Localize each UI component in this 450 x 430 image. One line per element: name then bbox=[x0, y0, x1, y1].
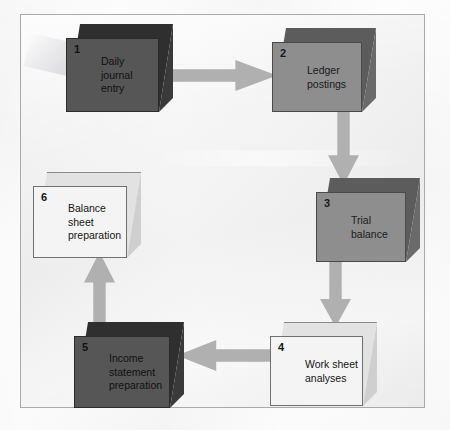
node-5-income-statement-preparation[interactable]: 5 Income statement preparation bbox=[74, 322, 184, 408]
node-4-label: Work sheet analyses bbox=[305, 358, 358, 385]
node-1-label: Daily journal entry bbox=[101, 55, 154, 96]
box-front-face: 3 Trial balance bbox=[316, 192, 406, 262]
node-2-label: Ledger postings bbox=[307, 64, 357, 91]
box-front-face: 1 Daily journal entry bbox=[66, 38, 159, 112]
node-6-number: 6 bbox=[41, 192, 47, 203]
node-5-number: 5 bbox=[82, 342, 88, 353]
node-2-ledger-postings[interactable]: 2 Ledger postings bbox=[272, 28, 376, 112]
box-front-face: 5 Income statement preparation bbox=[74, 336, 170, 408]
node-1-daily-journal-entry[interactable]: 1 Daily journal entry bbox=[66, 24, 173, 112]
node-3-trial-balance[interactable]: 3 Trial balance bbox=[316, 178, 420, 262]
node-5-label: Income statement preparation bbox=[109, 352, 165, 393]
node-6-balance-sheet-preparation[interactable]: 6 Balance sheet preparation bbox=[33, 172, 141, 258]
diagram-canvas: 1 Daily journal entry 2 Ledger postings … bbox=[0, 0, 450, 430]
node-4-number: 4 bbox=[278, 342, 284, 353]
node-6-label: Balance sheet preparation bbox=[68, 202, 122, 243]
node-4-work-sheet-analyses[interactable]: 4 Work sheet analyses bbox=[270, 322, 377, 406]
node-1-number: 1 bbox=[74, 44, 80, 55]
node-3-label: Trial balance bbox=[351, 214, 401, 241]
node-2-number: 2 bbox=[280, 48, 286, 59]
node-3-number: 3 bbox=[324, 198, 330, 209]
box-front-face: 4 Work sheet analyses bbox=[270, 336, 363, 406]
box-front-face: 2 Ledger postings bbox=[272, 42, 362, 112]
box-front-face: 6 Balance sheet preparation bbox=[33, 186, 127, 258]
